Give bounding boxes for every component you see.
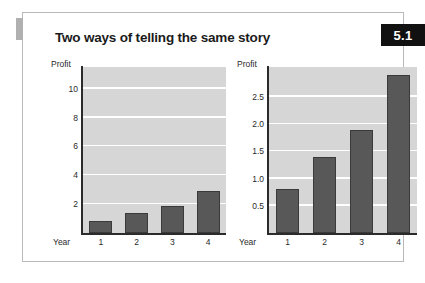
y-tick-label: 1.5 <box>252 146 264 156</box>
chart-left-y-axis-title: Profit <box>51 59 71 69</box>
chart-left-plot-area <box>83 67 226 233</box>
y-tick-label: 10 <box>69 84 78 94</box>
bar <box>350 130 373 233</box>
chart-right-plot-area <box>269 67 417 233</box>
x-tick-label: 2 <box>134 237 139 247</box>
chart-right-x-axis-line <box>267 233 417 235</box>
chart-right: Profit 0.51.01.52.02.5 1234 Year <box>237 59 417 251</box>
y-tick-label: 6 <box>73 141 78 151</box>
y-tick-label: 2 <box>73 199 78 209</box>
x-tick-label: 4 <box>206 237 211 247</box>
chart-left-x-axis-title: Year <box>53 237 70 247</box>
figure-card: Two ways of telling the same story 5.1 P… <box>22 12 404 262</box>
title-accent-bar <box>16 18 23 40</box>
x-tick-label: 3 <box>170 237 175 247</box>
x-tick-label: 1 <box>99 237 104 247</box>
gridline <box>83 87 226 89</box>
y-tick-label: 2.5 <box>252 92 264 102</box>
bar <box>161 206 184 233</box>
bar <box>276 189 299 233</box>
bar <box>125 213 148 233</box>
bar <box>197 191 220 233</box>
y-tick-label: 1.0 <box>252 174 264 184</box>
y-tick-label: 4 <box>73 170 78 180</box>
y-tick-label: 2.0 <box>252 119 264 129</box>
chart-right-y-axis-title: Profit <box>237 59 257 69</box>
gridline <box>83 174 226 176</box>
x-tick-label: 3 <box>359 237 364 247</box>
chart-left-y-axis-line <box>81 66 83 234</box>
chart-left-x-axis-line <box>81 233 226 235</box>
bar <box>313 157 336 233</box>
x-tick-label: 1 <box>285 237 290 247</box>
x-tick-label: 4 <box>396 237 401 247</box>
chart-right-plot-wrap: 0.51.01.52.02.5 1234 Year <box>269 67 417 233</box>
figure-number-badge: 5.1 <box>381 24 425 46</box>
y-tick-label: 0.5 <box>252 201 264 211</box>
bar <box>387 75 410 233</box>
chart-left-plot-wrap: 246810 1234 Year <box>83 67 226 233</box>
gridline <box>83 145 226 147</box>
figure-title: Two ways of telling the same story <box>55 30 270 45</box>
bar <box>89 221 112 233</box>
chart-right-y-axis-line <box>267 66 269 234</box>
gridline <box>83 116 226 118</box>
chart-right-x-axis-title: Year <box>239 237 256 247</box>
y-tick-label: 8 <box>73 113 78 123</box>
chart-left: Profit 246810 1234 Year <box>51 59 226 251</box>
x-tick-label: 2 <box>322 237 327 247</box>
